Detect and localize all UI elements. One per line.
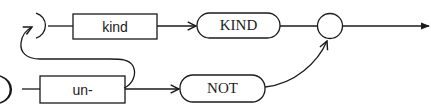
top-entry-arc <box>36 13 45 38</box>
KIND-label: KIND <box>197 13 280 38</box>
not-to-junction <box>265 41 327 87</box>
un-label: un- <box>40 76 125 103</box>
bottom-entry-arc <box>0 76 11 103</box>
NOT-label: NOT <box>180 75 265 102</box>
junction-circle <box>318 14 343 39</box>
kind-label: kind <box>73 14 157 39</box>
syntax-diagram: kind KIND un- NOT <box>0 0 431 109</box>
